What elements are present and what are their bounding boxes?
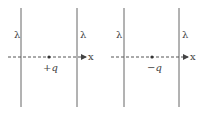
wire-right-label: λ — [182, 29, 189, 40]
charge-label: +q — [43, 62, 58, 73]
charge-label: −q — [147, 62, 162, 73]
wire-left-label: λ — [116, 29, 123, 40]
panel-right: λ λ −q x — [111, 8, 196, 107]
axis-label: x — [88, 51, 94, 62]
charge-dot — [47, 55, 50, 58]
wire-left-label: λ — [14, 29, 21, 40]
charge-dot — [150, 55, 153, 58]
diagram-canvas: λ λ +q x λ λ −q x — [0, 0, 206, 119]
axis-label: x — [190, 51, 196, 62]
panel-left: λ λ +q x — [8, 8, 94, 107]
wire-right-label: λ — [80, 29, 87, 40]
